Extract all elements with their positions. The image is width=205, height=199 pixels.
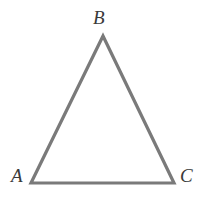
- vertex-label-c: C: [180, 166, 193, 185]
- figure-canvas: A B C: [0, 0, 205, 199]
- vertex-label-b: B: [93, 8, 105, 27]
- triangle-shape: [0, 0, 205, 199]
- triangle-outline: [31, 36, 174, 183]
- vertex-label-a: A: [11, 166, 23, 185]
